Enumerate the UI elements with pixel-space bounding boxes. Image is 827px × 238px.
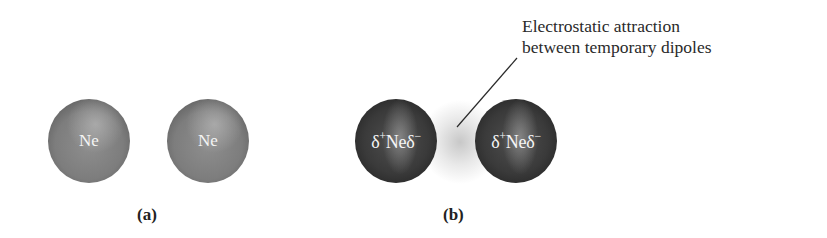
annotation-text: Electrostatic attraction between tempora… xyxy=(522,16,712,58)
annotation-line-1: Electrostatic attraction xyxy=(522,16,712,37)
annotation-line-2: between temporary dipoles xyxy=(522,37,712,58)
